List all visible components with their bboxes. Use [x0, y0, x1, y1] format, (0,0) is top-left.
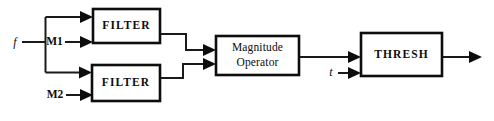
- block-thresh-label: THRESH: [374, 48, 429, 60]
- block-diagram: FILTER FILTER Magnitude Operator THRESH …: [0, 0, 494, 121]
- arrowhead-thresh-in-t: [348, 67, 361, 79]
- arrowhead-thresh-in-top: [348, 51, 361, 63]
- label-input-f: f: [13, 35, 18, 49]
- arrowhead-filter-bottom-in: [79, 67, 92, 79]
- arrowhead-filter-top-in: [80, 11, 93, 23]
- block-filter-bottom-label: FILTER: [102, 76, 150, 88]
- block-magnitude-label-line1: Magnitude: [232, 41, 283, 54]
- label-mask-m2: M2: [47, 88, 64, 100]
- wire-filter-bottom-to-magnitude: [160, 64, 203, 78]
- arrowhead-magnitude-in-top: [203, 44, 216, 56]
- arrowhead-magnitude-in-bottom: [203, 58, 216, 70]
- label-mask-m1: M1: [46, 35, 63, 47]
- arrowhead-m1-in: [80, 36, 93, 48]
- arrowhead-output: [469, 51, 482, 63]
- diagram-canvas: FILTER FILTER Magnitude Operator THRESH …: [0, 0, 494, 121]
- block-filter-top-label: FILTER: [102, 19, 150, 31]
- label-threshold-t: t: [329, 65, 333, 79]
- wire-filter-top-to-magnitude: [160, 34, 203, 50]
- block-magnitude-label-line2: Operator: [236, 56, 278, 69]
